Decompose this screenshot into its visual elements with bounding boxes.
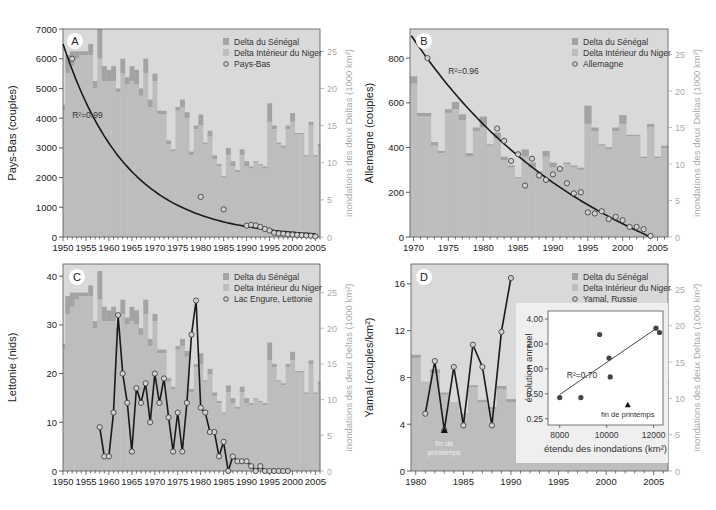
y-tick-label: 30 bbox=[46, 319, 57, 330]
bar-niger bbox=[194, 129, 199, 237]
inset-x-tick: 10000 bbox=[595, 430, 619, 440]
bar-senegal bbox=[74, 51, 79, 58]
bar-senegal bbox=[487, 144, 494, 145]
legend-label-senegal: Delta du Sénégal bbox=[234, 37, 299, 47]
right-tick-label: 20 bbox=[327, 84, 337, 94]
bar-niger bbox=[74, 300, 79, 471]
data-point bbox=[564, 181, 569, 186]
bar-senegal bbox=[438, 151, 445, 153]
bar-niger bbox=[231, 166, 236, 237]
bar-niger bbox=[506, 402, 516, 471]
bar-niger bbox=[107, 81, 112, 237]
bar-senegal bbox=[267, 343, 272, 361]
bar-senegal bbox=[647, 124, 654, 128]
data-point bbox=[230, 454, 235, 459]
bar-niger bbox=[299, 372, 304, 471]
bar-senegal bbox=[171, 387, 176, 389]
bar-senegal bbox=[258, 401, 263, 402]
data-point bbox=[432, 358, 437, 363]
bar-senegal bbox=[410, 76, 417, 83]
bar-senegal bbox=[226, 148, 231, 155]
bar-senegal bbox=[162, 111, 167, 115]
inset-y-tick: 0.25 bbox=[526, 414, 543, 424]
bar-senegal bbox=[130, 66, 135, 81]
bar-senegal bbox=[661, 146, 668, 148]
bar-senegal bbox=[240, 149, 245, 155]
bar-senegal bbox=[466, 153, 473, 157]
bar-niger bbox=[88, 55, 93, 237]
bar-niger bbox=[166, 144, 171, 237]
bar-senegal bbox=[522, 149, 529, 156]
bar-senegal bbox=[244, 161, 249, 166]
bar-niger bbox=[120, 74, 125, 237]
bar-niger bbox=[120, 314, 125, 471]
bar-niger bbox=[70, 66, 75, 237]
bar-niger bbox=[97, 300, 102, 471]
x-tick-label: 1960 bbox=[98, 242, 119, 253]
data-point bbox=[244, 459, 249, 464]
bar-niger bbox=[449, 402, 459, 471]
inset-data-point bbox=[653, 326, 658, 331]
bar-niger bbox=[570, 167, 577, 237]
data-point bbox=[106, 454, 111, 459]
x-tick-label: 1980 bbox=[190, 476, 211, 487]
data-point bbox=[470, 342, 475, 347]
right-tick-label: 15 bbox=[675, 123, 685, 133]
late-spring-label: fin de bbox=[435, 439, 453, 448]
panel-letter: B bbox=[420, 35, 427, 47]
bar-niger bbox=[263, 405, 268, 471]
bar-niger bbox=[143, 74, 148, 237]
bar-senegal bbox=[221, 176, 226, 177]
y-tick-label: 16 bbox=[394, 278, 405, 289]
bar-senegal bbox=[79, 51, 84, 55]
right-tick-label: 5 bbox=[675, 196, 680, 206]
panel-c-lettonie: 0102030400510152025195019551960196519701… bbox=[6, 264, 354, 487]
bar-senegal bbox=[549, 163, 556, 168]
bar-senegal bbox=[272, 126, 277, 130]
legend-label-niger: Delta Intérieur du Niger bbox=[234, 48, 322, 58]
bar-senegal bbox=[584, 106, 591, 124]
y-tick-label: 0 bbox=[52, 232, 57, 243]
x-tick-label: 1970 bbox=[144, 242, 165, 253]
bar-niger bbox=[313, 157, 318, 237]
right-tick-label: 0 bbox=[675, 233, 680, 243]
right-tick-label: 15 bbox=[675, 358, 685, 368]
bar-niger bbox=[313, 394, 318, 471]
r2-label: R²=0.99 bbox=[72, 110, 103, 120]
y-axis-label: Pays-Bas (couples) bbox=[6, 85, 18, 180]
panel-b-allemagne: 0200400600800051015202519701975198019851… bbox=[363, 29, 702, 253]
bar-niger bbox=[549, 168, 556, 237]
right-tick-label: 20 bbox=[675, 87, 685, 97]
bar-niger bbox=[466, 157, 473, 237]
bar-niger bbox=[272, 368, 277, 472]
bar-senegal bbox=[180, 339, 185, 346]
x-tick-label: 1995 bbox=[259, 242, 280, 253]
data-point bbox=[253, 468, 258, 473]
bar-niger bbox=[497, 389, 507, 471]
bar-niger bbox=[431, 146, 438, 237]
bar-niger bbox=[226, 155, 231, 237]
bar-niger bbox=[162, 353, 167, 471]
x-tick-label: 2000 bbox=[282, 242, 303, 253]
bar-senegal bbox=[74, 293, 79, 300]
bar-senegal bbox=[180, 100, 185, 107]
bar-niger bbox=[633, 136, 640, 237]
bar-niger bbox=[438, 153, 445, 237]
data-point bbox=[148, 420, 153, 425]
bar-senegal bbox=[267, 103, 272, 122]
inset-data-point bbox=[657, 330, 662, 335]
bar-senegal bbox=[162, 350, 167, 354]
bar-niger bbox=[185, 118, 190, 237]
bar-senegal bbox=[226, 385, 231, 392]
bar-niger bbox=[584, 124, 591, 237]
data-point bbox=[508, 275, 513, 280]
bar-senegal bbox=[249, 403, 254, 405]
bar-senegal bbox=[102, 307, 107, 321]
bar-niger bbox=[130, 81, 135, 237]
right-tick-label: 15 bbox=[327, 359, 337, 369]
bar-niger bbox=[134, 325, 139, 471]
bar-senegal bbox=[290, 113, 295, 122]
legend-label-senegal: Delta du Sénégal bbox=[583, 37, 648, 47]
data-point bbox=[285, 468, 290, 473]
x-tick-label: 2005 bbox=[647, 242, 668, 253]
